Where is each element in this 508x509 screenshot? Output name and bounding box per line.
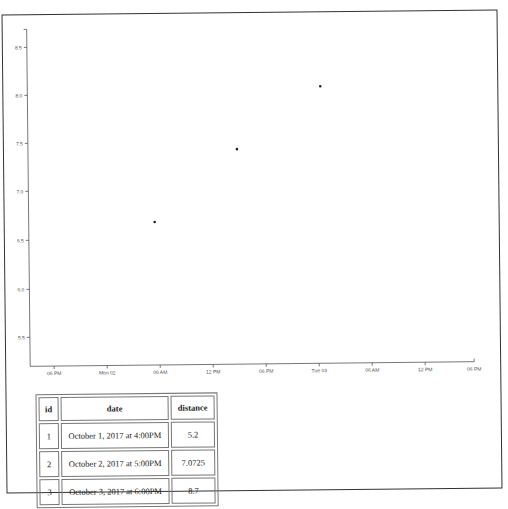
y-axis (27, 29, 31, 366)
cell-date: October 1, 2017 at 4:00PM (61, 422, 169, 449)
y-tick-label: 7.0 (16, 188, 23, 194)
x-tick-label: 06 PM (47, 370, 62, 376)
cell-id: 3 (39, 479, 59, 505)
data-point (319, 85, 322, 88)
figure-frame: 8.5 8.0 7.5 7.0 6.5 6.0 5.5 06 PM Mon 02… (2, 9, 503, 493)
x-tick-label: 06 PM (467, 366, 482, 372)
table-row: 3 October 3, 2017 at 6:00PM 8.7 (39, 477, 215, 505)
cell-id: 1 (39, 423, 59, 449)
x-tick-label: 12 PM (418, 366, 433, 372)
y-tick-label: 6.5 (17, 237, 24, 243)
table-row: 2 October 2, 2017 at 5:00PM 7.0725 (39, 449, 215, 477)
x-tick-label: 12 PM (206, 368, 221, 374)
y-tick-label: 8.0 (15, 92, 22, 98)
x-tick-label: 06 AM (153, 369, 167, 375)
cell-distance: 5.2 (171, 421, 215, 447)
data-table: id date distance 1 October 1, 2017 at 4:… (35, 392, 218, 508)
data-point (153, 221, 156, 224)
table-row: 1 October 1, 2017 at 4:00PM 5.2 (39, 421, 215, 449)
header-id: id (39, 397, 59, 421)
cell-date: October 2, 2017 at 5:00PM (61, 450, 169, 477)
x-tick-label: Mon 02 (99, 369, 116, 375)
x-tick-label: 06 PM (259, 368, 274, 374)
header-distance: distance (171, 395, 215, 419)
table-header-row: id date distance (39, 395, 215, 421)
x-tick-label: 06 AM (365, 367, 379, 373)
cell-distance: 8.7 (171, 477, 215, 503)
y-tick-label: 7.5 (16, 140, 23, 146)
y-tick-label: 8.5 (15, 44, 22, 50)
data-point (236, 148, 239, 151)
cell-id: 2 (39, 451, 59, 477)
cell-distance: 7.0725 (171, 449, 215, 475)
y-tick-label: 5.5 (18, 334, 25, 340)
y-tick-label: 6.0 (17, 286, 24, 292)
data-points (152, 85, 323, 223)
header-date: date (61, 396, 169, 421)
cell-date: October 3, 2017 at 6:00PM (61, 478, 169, 505)
x-tick-label: Tue 03 (312, 367, 328, 373)
x-axis (30, 362, 474, 367)
